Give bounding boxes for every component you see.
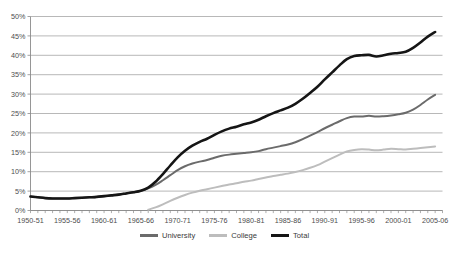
y-axis-label: 50% xyxy=(11,12,26,21)
y-axis-label: 40% xyxy=(11,51,26,60)
legend-swatch-icon xyxy=(209,234,227,237)
x-axis-label: 2000-01 xyxy=(385,216,411,225)
legend-label: College xyxy=(231,232,257,240)
y-axis-label: 45% xyxy=(11,32,26,41)
x-axis-label: 2005-06 xyxy=(422,216,448,225)
line-chart-plot: 50%45%40%35%30%25%20%15%10%5%0%1950-5119… xyxy=(0,0,449,254)
x-axis-label: 1995-96 xyxy=(348,216,374,225)
y-axis-label: 0% xyxy=(15,206,26,215)
y-axis-label: 20% xyxy=(11,129,26,138)
x-axis-label: 1975-76 xyxy=(201,216,227,225)
x-axis-label: 1990-91 xyxy=(312,216,338,225)
legend-item-total[interactable]: Total xyxy=(271,232,309,240)
x-axis-label: 1970-71 xyxy=(164,216,190,225)
x-axis-label: 1965-66 xyxy=(128,216,154,225)
x-axis-label: 1985-86 xyxy=(275,216,301,225)
legend-label: University xyxy=(162,232,195,240)
x-axis-label: 1960-61 xyxy=(91,216,117,225)
legend-swatch-icon xyxy=(271,234,289,237)
series-line-college xyxy=(148,146,435,209)
x-axis-label: 1955-56 xyxy=(54,216,80,225)
y-axis-label: 30% xyxy=(11,90,26,99)
legend-item-university[interactable]: University xyxy=(140,232,195,240)
series-line-total xyxy=(31,32,436,198)
legend-label: Total xyxy=(293,232,309,240)
y-axis-label: 25% xyxy=(11,109,26,118)
chart-container: 50%45%40%35%30%25%20%15%10%5%0%1950-5119… xyxy=(0,0,449,254)
x-axis-label: 1950-51 xyxy=(17,216,43,225)
legend-item-college[interactable]: College xyxy=(209,232,257,240)
y-axis-label: 5% xyxy=(15,187,26,196)
chart-legend: UniversityCollegeTotal xyxy=(0,232,449,240)
legend-swatch-icon xyxy=(140,234,158,237)
y-axis-label: 10% xyxy=(11,167,26,176)
y-axis-label: 15% xyxy=(11,148,26,157)
x-axis-label: 1980-81 xyxy=(238,216,264,225)
y-axis-label: 35% xyxy=(11,70,26,79)
